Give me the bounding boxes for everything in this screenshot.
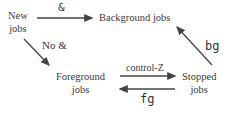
node-stopped-jobs-line1: Stopped <box>182 70 216 83</box>
node-foreground-jobs-line1: Foreground <box>56 70 105 83</box>
node-new-jobs-line2: jobs <box>8 22 28 35</box>
node-new-jobs: New jobs <box>8 9 28 35</box>
node-foreground-jobs-line2: jobs <box>56 83 105 96</box>
edge-label-fg: fg <box>140 92 154 106</box>
edge-label-bg: bg <box>205 39 219 53</box>
node-background-jobs: Background jobs <box>99 11 170 24</box>
node-new-jobs-line1: New <box>8 9 28 22</box>
node-stopped-jobs-line2: jobs <box>182 83 216 96</box>
edge-label-no-ampersand: No & <box>42 39 67 51</box>
edge-label-ampersand: & <box>58 1 65 14</box>
job-control-diagram: New jobs Background jobs Foreground jobs… <box>0 0 237 114</box>
node-foreground-jobs: Foreground jobs <box>56 70 105 96</box>
edge-label-control-z: control-Z <box>126 61 164 74</box>
node-stopped-jobs: Stopped jobs <box>182 70 216 96</box>
